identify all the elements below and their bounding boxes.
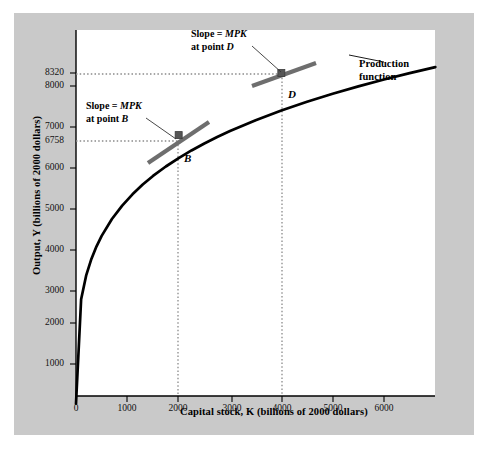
annotation-slope-b-point: B xyxy=(122,113,129,124)
point-label-b: B xyxy=(184,152,191,164)
annotation-slope-b-atpoint: at point xyxy=(86,113,122,124)
y-tick-label-3000: 3000 xyxy=(32,285,64,295)
y-tick-label-7000: 7000 xyxy=(32,121,64,131)
leader-line-d xyxy=(252,46,281,72)
y-tick-label-8000: 8000 xyxy=(32,80,64,90)
annotation-slope-d-atpoint: at point xyxy=(191,41,227,52)
x-tick-label-6000: 6000 xyxy=(364,403,404,413)
x-tick-label-2000: 2000 xyxy=(158,403,198,413)
x-tick-label-3000: 3000 xyxy=(212,403,252,413)
x-tick-marks xyxy=(127,396,384,402)
curve-label-line2: function xyxy=(359,70,409,83)
y-tick-marks xyxy=(70,73,76,364)
annotation-slope-b: Slope = MPK at point B xyxy=(86,100,142,125)
curve-label-production-function: Production function xyxy=(359,57,409,83)
figure-root: Output, Y (billions of 2000 dollars) Cap… xyxy=(0,0,488,449)
annotation-slope-d-prefix: Slope = xyxy=(191,28,225,39)
chart-canvas xyxy=(0,0,488,449)
y-axis-title: Output, Y (billions of 2000 dollars) xyxy=(31,76,42,316)
point-marker-b xyxy=(175,132,182,139)
x-tick-label-5000: 5000 xyxy=(313,403,353,413)
annotation-slope-b-prefix: Slope = xyxy=(86,100,120,111)
y-tick-label-6000: 6000 xyxy=(32,162,64,172)
y-tick-label-4000: 4000 xyxy=(32,244,64,254)
y-tick-label-1000: 1000 xyxy=(32,358,64,368)
annotation-slope-b-line1: Slope = MPK xyxy=(86,100,142,113)
y-tick-label-6758: 6758 xyxy=(32,135,64,145)
annotation-slope-d: Slope = MPK at point D xyxy=(191,28,247,53)
annotation-slope-d-mpk: MPK xyxy=(225,28,247,39)
annotation-slope-d-line2: at point D xyxy=(191,41,247,54)
leader-line-b xyxy=(146,118,176,139)
y-tick-label-2000: 2000 xyxy=(32,317,64,327)
annotation-slope-b-line2: at point B xyxy=(86,113,142,126)
point-label-d: D xyxy=(288,88,296,100)
annotation-slope-b-mpk: MPK xyxy=(120,100,142,111)
x-tick-label-0: 0 xyxy=(56,403,96,413)
y-tick-label-8320: 8320 xyxy=(32,67,64,77)
y-tick-label-5000: 5000 xyxy=(32,203,64,213)
guideline-b xyxy=(76,141,178,396)
curve-label-line1: Production xyxy=(359,57,409,70)
annotation-slope-d-line1: Slope = MPK xyxy=(191,28,247,41)
annotation-slope-d-point: D xyxy=(227,41,234,52)
x-tick-label-1000: 1000 xyxy=(107,403,147,413)
x-tick-label-4000: 4000 xyxy=(262,403,302,413)
